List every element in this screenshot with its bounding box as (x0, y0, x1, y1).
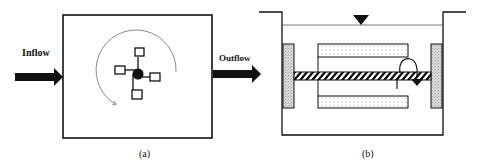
water-level-triangle-icon (353, 15, 369, 25)
inflow-arrow-icon (15, 68, 63, 86)
rotating-shaft (294, 72, 431, 80)
outflow-arrow-icon (213, 65, 261, 83)
panel-a (15, 15, 261, 138)
outflow-label: Outflow (219, 53, 251, 63)
inflow-label: Inflow (22, 47, 50, 58)
lower-drum (318, 96, 408, 108)
right-end-plate (431, 44, 442, 108)
caption-a: (a) (139, 148, 150, 159)
caption-b: (b) (362, 148, 374, 159)
figure-canvas (0, 0, 479, 166)
upper-drum (318, 44, 408, 57)
left-end-plate (283, 44, 294, 108)
panel-b (259, 12, 466, 135)
